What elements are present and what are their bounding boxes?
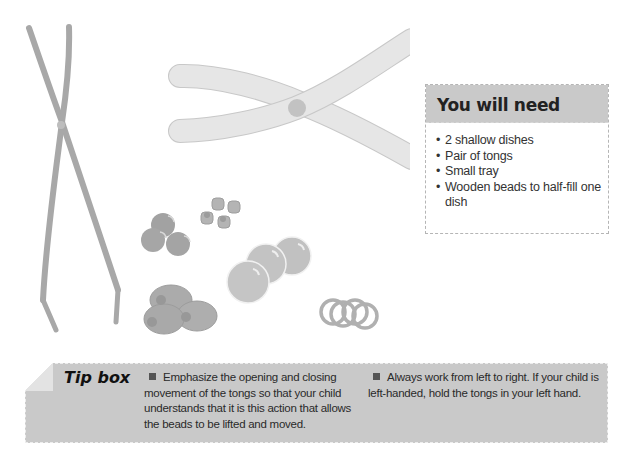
materials-list: 2 shallow dishes Pair of tongs Small tra… <box>426 123 608 211</box>
tongs-open-icon <box>180 20 425 180</box>
square-bullet-icon <box>373 373 380 380</box>
tip-item: Emphasize the opening and closing moveme… <box>144 370 354 432</box>
bead-cluster-icon <box>141 213 190 256</box>
list-item: Small tray <box>436 164 608 180</box>
page-fold-corner-icon <box>25 363 53 391</box>
oval-beads-icon <box>144 285 217 334</box>
you-will-need-box: You will need 2 shallow dishes Pair of t… <box>425 84 609 234</box>
cylinder-beads-icon <box>201 198 240 228</box>
you-will-need-header: You will need <box>426 85 608 123</box>
tongs-closed-icon <box>29 27 118 330</box>
list-item: 2 shallow dishes <box>436 133 608 149</box>
tip-box: Tip box Emphasize the opening and closin… <box>25 363 608 443</box>
large-beads-icon <box>227 237 311 303</box>
square-bullet-icon <box>149 373 156 380</box>
tip-text: Emphasize the opening and closing moveme… <box>144 371 351 430</box>
list-item: Pair of tongs <box>436 149 608 165</box>
list-item: Wooden beads to half-fill one dish <box>436 180 608 211</box>
tip-item: Always work from left to right. If your … <box>368 370 600 401</box>
tip-box-label: Tip box <box>64 368 130 387</box>
ring-beads-icon <box>321 300 377 328</box>
tip-text: Always work from left to right. If your … <box>368 371 599 399</box>
you-will-need-title: You will need <box>437 95 560 115</box>
